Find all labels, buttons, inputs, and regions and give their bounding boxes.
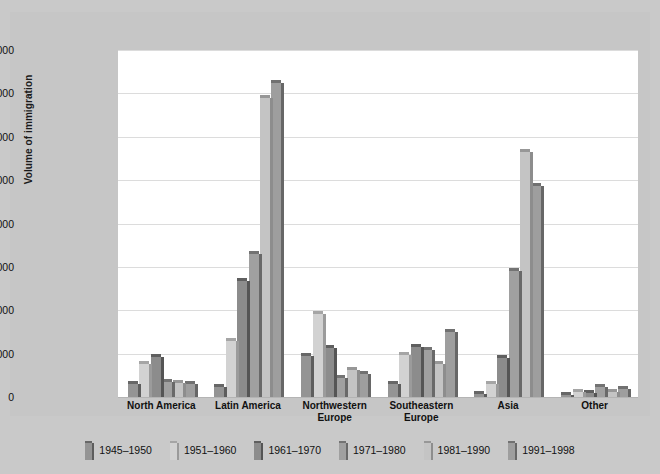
bar-face [214, 387, 224, 397]
bar-top [226, 338, 236, 341]
bar-top [595, 384, 605, 387]
legend-swatch-face [339, 443, 346, 460]
bar-side [583, 392, 586, 397]
legend-swatch-side [515, 443, 517, 460]
bar-side [270, 98, 273, 397]
bar-group [465, 50, 552, 397]
legend-item[interactable]: 1961–1970 [254, 441, 321, 460]
legend-swatch-face [85, 443, 92, 460]
bar-side [149, 364, 152, 397]
bar [128, 384, 138, 397]
y-axis-tick-label: 0 [0, 391, 14, 403]
legend-swatch-top [508, 441, 515, 443]
bar-top [497, 355, 507, 358]
bar-top [347, 367, 357, 370]
bar-face [561, 395, 571, 397]
legend-swatch-side [346, 443, 348, 460]
x-axis-tick-label: Other [551, 400, 638, 412]
legend-item[interactable]: 1981–1990 [424, 441, 491, 460]
plot-area [118, 50, 638, 397]
legend-swatch-top [254, 441, 261, 443]
legend-swatch-side [261, 443, 263, 460]
legend-item[interactable]: 1971–1980 [339, 441, 406, 460]
bar-side [368, 374, 371, 397]
bar-top [237, 278, 247, 281]
y-axis-tick-label: 3,000,000 [0, 131, 14, 143]
bar-side [138, 384, 141, 397]
x-axis-tick-label: Latin America [205, 400, 292, 412]
bar-group [205, 50, 292, 397]
legend-swatch [508, 441, 515, 460]
bar-top [139, 361, 149, 364]
legend-swatch-side [431, 443, 433, 460]
legend-swatch-face [170, 443, 177, 460]
bar-top [520, 149, 530, 152]
bar [388, 384, 398, 397]
bar-top [214, 384, 224, 387]
bar-side [247, 281, 250, 397]
bars-layer [118, 50, 638, 397]
chart-figure: Volume of immigration 0500,0001,000,0001… [0, 0, 660, 474]
legend-label: 1951–1960 [184, 444, 237, 456]
y-axis-tick-label: 4,000,000 [0, 44, 14, 56]
bar-top [151, 354, 161, 357]
bar-side [195, 384, 198, 397]
legend-label: 1961–1970 [268, 444, 321, 456]
bar-face [128, 384, 138, 397]
bar-side [443, 364, 446, 397]
bar-group [378, 50, 465, 397]
bar-face [301, 356, 311, 397]
bar-side [311, 356, 314, 397]
bar-top [573, 389, 583, 392]
legend-item[interactable]: 1991–1998 [508, 441, 575, 460]
bar-side [594, 393, 597, 397]
legend-item[interactable]: 1951–1960 [170, 441, 237, 460]
legend-swatch-top [85, 441, 92, 443]
bar-side [183, 383, 186, 397]
legend-swatch [170, 441, 177, 460]
legend-swatch-face [424, 443, 431, 460]
y-axis-tick-label: 500,000 [0, 348, 14, 360]
x-axis-label-line: Northwestern [291, 400, 378, 412]
bar-top [486, 381, 496, 384]
bar-face [388, 384, 398, 397]
legend-swatch-top [170, 441, 177, 443]
bar-top [474, 391, 484, 394]
legend-swatch-top [424, 441, 431, 443]
y-axis-tick-label: 1,500,000 [0, 261, 14, 273]
y-axis-tick-label: 2,500,000 [0, 174, 14, 186]
bar-side [541, 186, 544, 397]
bar-side [519, 271, 522, 397]
bar-top [509, 268, 519, 271]
bar-side [236, 341, 239, 397]
x-axis-tick-labels: North AmericaLatin AmericaNorthwesternEu… [118, 400, 638, 430]
legend-label: 1945–1950 [99, 444, 152, 456]
legend-swatch [339, 441, 346, 460]
gridline [118, 397, 638, 398]
legend-swatch-side [177, 443, 179, 460]
legend-swatch-top [339, 441, 346, 443]
bar-side [605, 387, 608, 397]
legend-swatch [424, 441, 431, 460]
x-axis-label-line: Europe [291, 412, 378, 424]
bar-top [271, 80, 281, 83]
x-axis-tick-label: Asia [465, 400, 552, 412]
bar-side [398, 384, 401, 397]
y-axis-title: Volume of immigration [23, 50, 34, 210]
bar-top [313, 311, 323, 314]
legend-swatch [85, 441, 92, 460]
legend-label: 1971–1980 [353, 444, 406, 456]
bar-side [571, 395, 574, 397]
bar-side [224, 387, 227, 397]
bar-side [323, 314, 326, 397]
bar-top [260, 95, 270, 98]
x-axis-tick-label: NorthwesternEurope [291, 400, 378, 423]
bar-side [421, 347, 424, 397]
x-axis-tick-label: SoutheasternEurope [378, 400, 465, 423]
bar [214, 387, 224, 397]
bar-side [617, 392, 620, 397]
legend-item[interactable]: 1945–1950 [85, 441, 152, 460]
bar-top [618, 386, 628, 389]
x-axis-tick-label: North America [118, 400, 205, 412]
bar-top [249, 251, 259, 254]
